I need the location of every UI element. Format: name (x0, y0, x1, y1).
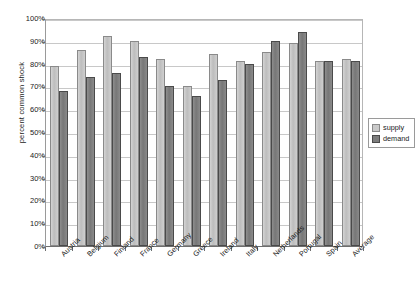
bar-chart: percent common shock 100%90%80%70%60%50%… (0, 0, 418, 297)
chart-legend: supply demand (368, 118, 415, 148)
y-tick-label: 100% (15, 15, 45, 23)
y-tick-label: 70% (15, 83, 45, 91)
bar-demand[interactable] (245, 64, 254, 246)
y-tick-label: 60% (15, 106, 45, 114)
bar-demand[interactable] (271, 41, 280, 246)
bar-demand[interactable] (324, 61, 333, 246)
bar-demand[interactable] (351, 61, 360, 246)
bar-group (152, 20, 179, 246)
legend-item-demand[interactable]: demand (372, 133, 412, 144)
y-tick-label: 0% (15, 243, 45, 251)
plot-area (45, 19, 363, 247)
bar-group (126, 20, 153, 246)
bar-group (46, 20, 73, 246)
bar-supply[interactable] (77, 50, 86, 246)
bar-supply[interactable] (103, 36, 112, 246)
bar-group (285, 20, 312, 246)
bar-group (205, 20, 232, 246)
bar-demand[interactable] (192, 96, 201, 246)
demand-swatch-icon (372, 135, 380, 143)
x-tick-mark (45, 247, 46, 251)
bar-demand[interactable] (139, 57, 148, 246)
bar-group (338, 20, 365, 246)
bar-demand[interactable] (165, 86, 174, 246)
y-tick-label: 30% (15, 175, 45, 183)
bar-supply[interactable] (315, 61, 324, 246)
bar-supply[interactable] (342, 59, 351, 246)
legend-item-supply[interactable]: supply (372, 122, 412, 133)
bar-group (311, 20, 338, 246)
bar-supply[interactable] (183, 86, 192, 246)
legend-label-demand: demand (383, 135, 409, 142)
y-tick-label: 10% (15, 220, 45, 228)
y-tick-label: 50% (15, 129, 45, 137)
bar-group (73, 20, 100, 246)
supply-swatch-icon (372, 124, 380, 132)
bar-group (179, 20, 206, 246)
bar-demand[interactable] (112, 73, 121, 246)
bar-supply[interactable] (289, 43, 298, 246)
y-tick-label: 20% (15, 197, 45, 205)
y-tick-label: 90% (15, 38, 45, 46)
y-tick-label: 40% (15, 152, 45, 160)
legend-label-supply: supply (383, 124, 404, 131)
bar-supply[interactable] (50, 66, 59, 246)
bar-supply[interactable] (156, 59, 165, 246)
bar-supply[interactable] (236, 61, 245, 246)
bar-supply[interactable] (130, 41, 139, 246)
bar-demand[interactable] (59, 91, 68, 246)
bar-series-container (46, 20, 362, 246)
bar-demand[interactable] (218, 80, 227, 246)
bar-group (99, 20, 126, 246)
y-tick-label: 80% (15, 61, 45, 69)
bar-group (258, 20, 285, 246)
bar-group (232, 20, 259, 246)
bar-supply[interactable] (262, 52, 271, 246)
bar-demand[interactable] (86, 77, 95, 246)
bar-supply[interactable] (209, 54, 218, 246)
bar-demand[interactable] (298, 32, 307, 246)
